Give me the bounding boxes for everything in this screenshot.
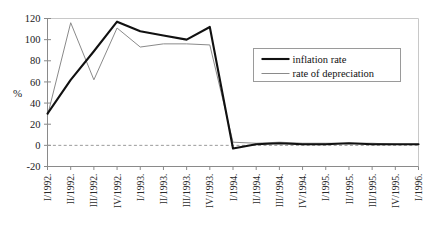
y-axis-title: %	[13, 87, 22, 99]
x-tick-label: III/1993.	[181, 174, 192, 208]
y-tick-label: 120	[25, 13, 41, 24]
x-tick-label: III/1992.	[88, 174, 99, 208]
x-tick-label: II/1993.	[158, 174, 169, 205]
y-tick-label: 60	[30, 77, 41, 88]
y-tick-label: 40	[30, 98, 41, 109]
x-tick-label: I/1996.	[413, 174, 424, 201]
x-tick-label: IV/1993.	[204, 174, 215, 208]
x-tick-label: I/1992.	[42, 174, 53, 201]
x-tick-label: I/1995.	[320, 174, 331, 201]
x-tick-label: IV/1995.	[390, 174, 401, 208]
x-tick-label: I/1994.	[228, 174, 239, 201]
x-tick-label: II/1995.	[344, 174, 355, 205]
series-line-inflation-rate	[48, 22, 419, 149]
x-tick-label: IV/1992.	[112, 174, 123, 208]
y-tick-label: 80	[30, 55, 41, 66]
x-tick-label: II/1994.	[251, 174, 262, 205]
x-tick-label: IV/1994.	[297, 174, 308, 208]
y-tick-label: -20	[27, 161, 41, 172]
y-tick-label: 100	[25, 34, 41, 45]
legend-label-inflation: inflation rate	[293, 54, 347, 65]
y-tick-label: 0	[35, 140, 40, 151]
x-tick-label: III/1995.	[367, 174, 378, 208]
x-tick-label: I/1993.	[135, 174, 146, 201]
y-tick-label: 20	[30, 119, 41, 130]
x-tick-label: II/1992.	[65, 174, 76, 205]
legend-label-depreciation: rate of depreciation	[293, 68, 375, 79]
inflation-depreciation-chart: -20020406080100120%I/1992.II/1992.III/19…	[0, 0, 431, 237]
chart-canvas: -20020406080100120%I/1992.II/1992.III/19…	[0, 0, 431, 237]
x-tick-label: III/1994.	[274, 174, 285, 208]
